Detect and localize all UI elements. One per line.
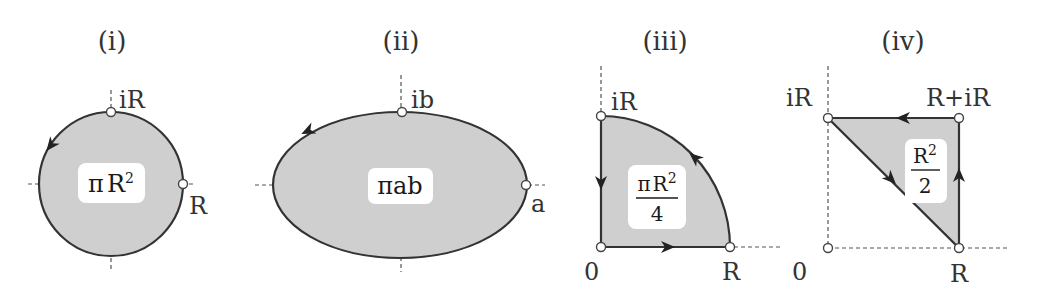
point-R xyxy=(179,180,188,189)
point-label-right: R xyxy=(189,192,208,220)
panel-title: (iii) xyxy=(642,26,687,56)
panel-i: (i) πR2 iR R xyxy=(28,26,208,270)
point-label-top-left: iR xyxy=(786,84,813,112)
point-iR xyxy=(107,108,116,117)
point-label-top: iR xyxy=(119,86,146,114)
panel-title: (i) xyxy=(98,26,127,56)
point-label-right: R xyxy=(722,258,741,286)
point-label-origin: 0 xyxy=(792,258,807,286)
point-label-right: a xyxy=(531,190,545,218)
panel-title: (ii) xyxy=(383,26,420,56)
contour-diagrams: (i) πR2 iR R (ii) πab ib a (iii) πR2 xyxy=(0,0,1038,300)
point-iR xyxy=(824,114,833,123)
point-label-bottom-right: R xyxy=(950,260,969,288)
point-iR xyxy=(597,112,606,121)
point-ib xyxy=(398,108,407,117)
point-label-top-right: R+iR xyxy=(926,84,991,112)
point-origin xyxy=(597,243,606,252)
point-a xyxy=(522,181,531,190)
point-R xyxy=(726,243,735,252)
point-label-top: iR xyxy=(611,88,638,116)
panel-iii: (iii) πR2 4 iR 0 R xyxy=(584,26,780,286)
point-R xyxy=(955,244,964,253)
point-label-top: ib xyxy=(411,86,434,114)
svg-text:4: 4 xyxy=(651,202,664,226)
svg-text:2: 2 xyxy=(919,174,932,198)
panel-ii: (ii) πab ib a xyxy=(255,26,545,272)
point-R-plus-iR xyxy=(955,114,964,123)
point-label-origin: 0 xyxy=(584,258,599,286)
area-label: πab xyxy=(377,172,422,200)
panel-title: (iv) xyxy=(881,26,924,56)
point-origin xyxy=(824,244,833,253)
panel-iv: (iv) R2 2 iR R+iR 0 R xyxy=(786,26,1010,288)
